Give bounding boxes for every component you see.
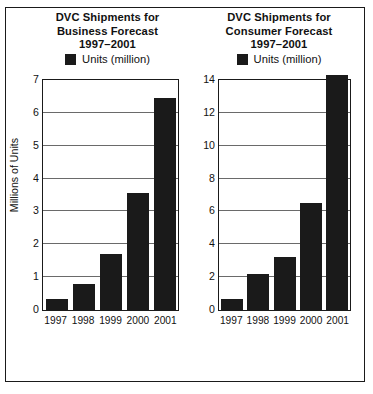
chart-title-line: 1997–2001 — [195, 38, 363, 52]
y-axis-tick-label: 3 — [33, 204, 39, 216]
chart-title-line: Business Forecast — [28, 25, 187, 39]
chart-panel-consumer: DVC Shipments for Consumer Forecast 1997… — [187, 8, 363, 381]
y-axis-tick-label: 7 — [33, 73, 39, 85]
y-axis-tick-label: 2 — [209, 270, 215, 282]
x-axis-tick-label: 2001 — [324, 315, 351, 326]
chart-title-line: DVC Shipments for — [195, 11, 363, 25]
chart-panel-business: DVC Shipments for Business Forecast 1997… — [6, 8, 187, 381]
plot-area-business: 01234567 19971998199920002001 — [42, 79, 179, 311]
bar-slot — [271, 80, 297, 310]
legend-label: Units (million) — [254, 53, 322, 65]
x-axis-tick-label: 2000 — [124, 315, 151, 326]
y-axis-tick-label: 10 — [203, 139, 215, 151]
plot-frame: 01234567 — [42, 79, 179, 311]
x-axis-tick-label: 1999 — [97, 315, 124, 326]
chart-title-business: DVC Shipments for Business Forecast 1997… — [6, 11, 187, 52]
y-axis-tick-label: 5 — [33, 139, 39, 151]
y-axis-tick-label: 4 — [33, 172, 39, 184]
bar — [300, 203, 322, 310]
x-axis-tick-label: 1997 — [42, 315, 69, 326]
y-axis-tick-label: 12 — [203, 106, 215, 118]
bar-slot — [324, 80, 350, 310]
chart-title-line: DVC Shipments for — [28, 11, 187, 25]
legend-swatch-icon — [237, 54, 248, 65]
bar-slot — [151, 80, 178, 310]
x-axis-labels: 19971998199920002001 — [218, 315, 351, 326]
y-axis-tick-label: 8 — [209, 172, 215, 184]
legend-label: Units (million) — [82, 53, 150, 65]
x-axis-tick-label: 1999 — [271, 315, 298, 326]
x-axis-tick-label: 1998 — [245, 315, 272, 326]
plot-frame: 02468101214 — [218, 79, 351, 311]
chart-panels: DVC Shipments for Business Forecast 1997… — [6, 8, 364, 381]
y-axis-title: Millions of Units — [8, 138, 22, 212]
chart-title-line: Consumer Forecast — [195, 25, 363, 39]
y-axis-tick-label: 0 — [33, 303, 39, 315]
bar — [274, 257, 296, 310]
bar — [46, 299, 68, 311]
y-axis-tick-label: 6 — [33, 106, 39, 118]
legend-swatch-icon — [65, 54, 76, 65]
bar-slot — [298, 80, 324, 310]
y-axis-tick-label: 0 — [209, 303, 215, 315]
chart-title-line: 1997–2001 — [28, 38, 187, 52]
bar-group — [43, 80, 178, 310]
bar — [127, 193, 149, 310]
bar-group — [219, 80, 350, 310]
x-axis-tick-label: 1997 — [218, 315, 245, 326]
chart-legend-business: Units (million) — [6, 53, 187, 65]
x-axis-labels: 19971998199920002001 — [42, 315, 179, 326]
bar-slot — [70, 80, 97, 310]
y-axis-tick-label: 14 — [203, 73, 215, 85]
bar — [326, 75, 348, 310]
x-axis-tick-label: 2001 — [152, 315, 179, 326]
chart-legend-consumer: Units (million) — [187, 53, 363, 65]
bar-slot — [43, 80, 70, 310]
bar — [154, 98, 176, 310]
bar — [247, 274, 269, 310]
bar — [100, 254, 122, 310]
chart-title-consumer: DVC Shipments for Consumer Forecast 1997… — [187, 11, 363, 52]
bar-slot — [124, 80, 151, 310]
bar — [221, 299, 243, 311]
bar-slot — [97, 80, 124, 310]
y-axis-tick-label: 6 — [209, 204, 215, 216]
x-axis-tick-label: 2000 — [298, 315, 325, 326]
plot-area-consumer: 02468101214 19971998199920002001 — [218, 79, 351, 311]
y-axis-tick-label: 1 — [33, 270, 39, 282]
y-axis-tick-label: 4 — [209, 237, 215, 249]
figure-frame: DVC Shipments for Business Forecast 1997… — [5, 7, 365, 382]
bar — [73, 284, 95, 310]
bar-slot — [219, 80, 245, 310]
y-axis-tick-label: 2 — [33, 237, 39, 249]
bar-slot — [245, 80, 271, 310]
x-axis-tick-label: 1998 — [69, 315, 96, 326]
